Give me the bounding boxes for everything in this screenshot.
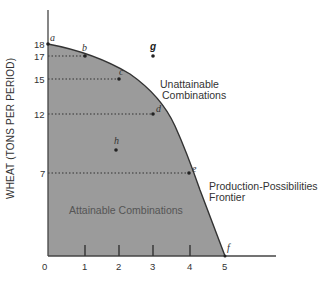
unattainable-label-line2: Combinations bbox=[162, 89, 226, 101]
x-tick-0: 0 bbox=[42, 261, 47, 272]
ppf-label-line2: Frontier bbox=[209, 191, 246, 203]
point-a-label: a bbox=[50, 32, 55, 43]
y-tick-12: 12 bbox=[34, 109, 45, 120]
point-h bbox=[114, 148, 118, 152]
point-c-label: c bbox=[119, 66, 124, 77]
point-g bbox=[151, 54, 155, 58]
attainable-region bbox=[48, 44, 225, 256]
y-tick-7: 7 bbox=[40, 168, 45, 179]
y-axis-label: WHEAT (TONS PER PERIOD) bbox=[5, 58, 16, 199]
point-g-label: g bbox=[149, 41, 156, 52]
ppf-chart: 0 1 2 3 4 5 18 17 15 12 7 WHEAT (TONS PE… bbox=[0, 0, 333, 289]
point-f-label: f bbox=[227, 242, 231, 253]
x-tick-4: 4 bbox=[187, 261, 192, 272]
x-tick-3: 3 bbox=[150, 261, 155, 272]
point-h-label: h bbox=[114, 135, 119, 146]
y-tick-15: 15 bbox=[34, 74, 45, 85]
x-tick-5: 5 bbox=[222, 261, 227, 272]
x-tick-2: 2 bbox=[116, 261, 121, 272]
point-e-label: e bbox=[192, 163, 197, 174]
attainable-label: Attainable Combinations bbox=[69, 204, 183, 216]
x-tick-1: 1 bbox=[82, 261, 87, 272]
y-tick-17: 17 bbox=[34, 51, 45, 62]
point-b-label: b bbox=[82, 42, 87, 53]
y-tick-18: 18 bbox=[34, 39, 45, 50]
